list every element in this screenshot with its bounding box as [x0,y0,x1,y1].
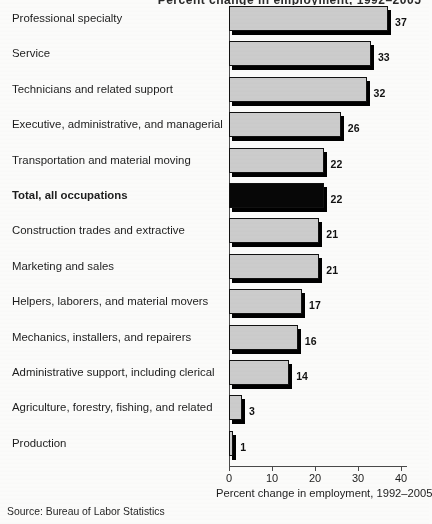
bar-value-label: 33 [378,51,390,63]
bar [229,289,302,314]
x-axis-tick-label: 0 [226,472,232,484]
bar [229,395,242,420]
x-axis-title: Percent change in employment, 1992–2005 [216,487,429,499]
bar [229,254,319,279]
bar-value-label: 21 [326,264,338,276]
bar-value-label: 26 [348,122,360,134]
plot-area: 373332262222212117161431010203040 [0,0,429,470]
bar [229,183,324,208]
bar-value-label: 14 [296,370,308,382]
bar-value-label: 16 [305,335,317,347]
bar [229,148,324,173]
bar-value-label: 3 [249,405,255,417]
source-note: Source: Bureau of Labor Statistics [7,506,165,517]
x-axis-tick-label: 30 [352,472,364,484]
x-axis-tick [358,466,359,471]
x-axis-tick [272,466,273,471]
bar [229,218,319,243]
bar-value-label: 37 [395,16,407,28]
x-axis-tick [315,466,316,471]
x-axis-tick-label: 40 [395,472,407,484]
x-axis-tick [401,466,402,471]
x-axis-tick [229,466,230,471]
bar [229,431,233,456]
bar [229,360,289,385]
bar-value-label: 22 [331,193,343,205]
bar [229,77,367,102]
bar-value-label: 17 [309,299,321,311]
bar [229,6,388,31]
bar-value-label: 1 [240,441,246,453]
x-axis-tick-label: 10 [266,472,278,484]
bar-value-label: 22 [331,158,343,170]
x-axis-tick-label: 20 [309,472,321,484]
x-axis-line [229,466,407,467]
bar-value-label: 32 [374,87,386,99]
bar [229,41,371,66]
bar [229,112,341,137]
bar-value-label: 21 [326,228,338,240]
bar [229,325,298,350]
